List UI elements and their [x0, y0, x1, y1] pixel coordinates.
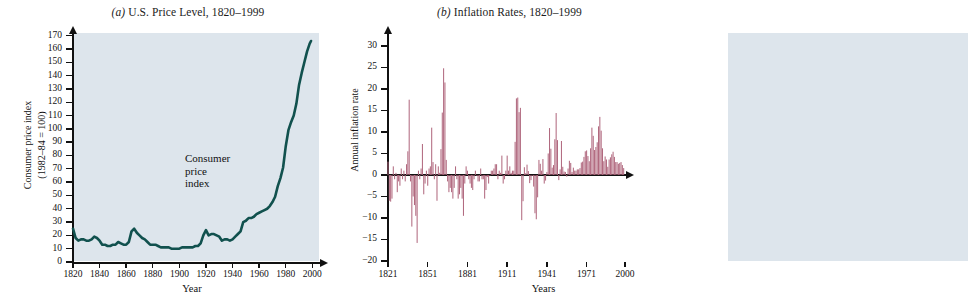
inflation-bar: [557, 140, 558, 175]
inflation-bar: [550, 149, 551, 175]
inflation-bar: [594, 150, 595, 175]
cpi-annotation-line3: index: [185, 177, 230, 190]
panel-a-x-tick: [72, 262, 73, 268]
panel-b-title-text: Inflation Rates, 1820–1999: [451, 6, 582, 18]
panel-a-y-tick-label: 140: [32, 71, 62, 81]
panel-a-y-tick: [66, 155, 73, 156]
inflation-bar: [554, 139, 555, 175]
inflation-bar: [569, 161, 570, 175]
inflation-bar: [414, 175, 415, 205]
panel-a-x-axis: [72, 262, 321, 264]
panel-b-x-tick-label: 2000: [608, 269, 642, 279]
inflation-bar: [501, 156, 502, 175]
panel-b-y-tick-label: 15: [348, 105, 377, 115]
inflation-bar: [611, 154, 612, 175]
inflation-bar: [407, 151, 408, 175]
panel-a-x-tick: [258, 262, 259, 268]
inflation-bar: [503, 175, 504, 184]
inflation-bar: [589, 161, 590, 175]
panel-a-y-tick-label: 100: [32, 124, 62, 134]
inflation-bar: [610, 157, 611, 175]
inflation-bar: [523, 175, 524, 201]
cpi-annotation: Consumer price index: [185, 152, 230, 190]
panel-b-y-tick-label: −10: [348, 213, 377, 223]
inflation-bar: [542, 159, 543, 175]
inflation-bar: [603, 161, 604, 175]
inflation-bar: [463, 175, 464, 216]
panel-b-y-tick: [381, 45, 388, 46]
inflation-bar: [488, 175, 489, 184]
panel-b-y-tick-label: −5: [348, 191, 377, 201]
inflation-bar: [427, 175, 428, 186]
panel-b-x-tick-label: 1851: [411, 269, 445, 279]
panel-b-y-tick-label: −15: [348, 234, 377, 244]
panel-a-x-tick: [232, 262, 233, 268]
panel-b-x-tick: [506, 262, 507, 267]
inflation-bar: [556, 113, 557, 175]
inflation-bar: [549, 128, 550, 175]
panel-a-title-text: U.S. Price Level, 1820–1999: [125, 6, 264, 18]
panel-a-y-tick: [66, 35, 73, 36]
panel-b-x-tick: [624, 262, 625, 267]
panel-a-y-tick-label: 160: [32, 44, 62, 54]
panel-a-price-level: (a) U.S. Price Level, 1820–1999 Consumer…: [0, 0, 340, 300]
panel-b-y-tick-label: 5: [348, 148, 377, 158]
panel-b-y-tick: [381, 67, 388, 68]
panel-a-y-tick: [66, 181, 73, 182]
panel-a-y-tick-label: 20: [32, 230, 62, 240]
panel-b-y-tick-label: 0: [348, 170, 377, 180]
inflation-bar: [452, 175, 453, 199]
inflation-bar: [409, 100, 410, 175]
inflation-bar: [587, 156, 588, 175]
panel-a-x-tick: [205, 262, 206, 268]
inflation-bar: [519, 112, 520, 175]
inflation-bar: [609, 159, 610, 174]
inflation-bar: [464, 175, 465, 184]
inflation-bar: [507, 156, 508, 175]
panel-b-y-tick: [381, 239, 388, 240]
inflation-bar: [391, 175, 392, 199]
inflation-bar: [561, 141, 562, 175]
panel-b-x-tick-label: 1821: [371, 269, 405, 279]
inflation-bar: [444, 82, 445, 174]
panel-b-y-tick: [381, 153, 388, 154]
panel-b-x-tick-label: 1971: [570, 269, 604, 279]
panel-a-y-tick: [66, 75, 73, 76]
panel-a-y-tick: [66, 115, 73, 116]
inflation-bar: [548, 153, 549, 175]
panel-a-xaxis-title: Year: [0, 283, 362, 294]
panel-a-y-tick: [66, 208, 73, 209]
inflation-bar: [534, 175, 535, 213]
panel-a-y-tick: [66, 88, 73, 89]
inflation-bar: [389, 175, 390, 201]
inflation-bar: [516, 98, 517, 175]
inflation-bar: [544, 175, 545, 184]
inflation-bar: [440, 149, 441, 175]
inflation-bar: [462, 175, 463, 199]
panel-a-y-tick-label: 70: [32, 164, 62, 174]
panel-b-x-tick: [586, 262, 587, 267]
inflation-bar: [521, 175, 522, 220]
panel-b-y-tick: [381, 174, 388, 175]
panel-b-y-tick-label: 20: [348, 84, 377, 94]
panel-a-y-tick-label: 40: [32, 204, 62, 214]
panel-a-y-tick-label: 10: [32, 244, 62, 254]
panel-a-y-axis: [72, 33, 74, 263]
panel-b-y-tick: [381, 131, 388, 132]
panel-a-x-tick-label: 2000: [295, 269, 329, 279]
inflation-bar: [538, 160, 539, 175]
panel-a-y-tick: [66, 62, 73, 63]
inflation-bar: [413, 175, 414, 197]
panel-a-y-tick-label: 90: [32, 137, 62, 147]
inflation-bar: [448, 175, 449, 192]
inflation-bar: [484, 175, 485, 199]
panel-a-title: (a) U.S. Price Level, 1820–1999: [0, 6, 358, 18]
inflation-bar: [442, 113, 443, 175]
inflation-bar: [537, 175, 538, 197]
inflation-bar: [586, 150, 587, 175]
panel-b-x-tick: [546, 262, 547, 267]
panel-a-y-tick: [66, 248, 73, 249]
panel-b-y-tick-label: 25: [348, 62, 377, 72]
inflation-bar: [613, 152, 614, 175]
inflation-bar: [601, 131, 602, 175]
